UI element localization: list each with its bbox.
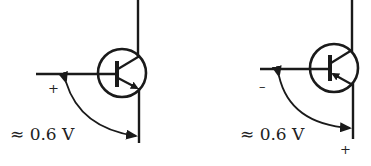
npn-transistor-symbol xyxy=(36,0,146,143)
transistor-diagrams: + ≈ 0.6 V – + ≈ 0.6 V xyxy=(0,0,371,166)
npn-voltage-label: ≈ 0.6 V xyxy=(10,124,75,144)
npn-base-polarity: + xyxy=(48,81,59,96)
pnp-diagram: – + ≈ 0.6 V xyxy=(240,0,358,157)
pnp-base-polarity: – xyxy=(259,79,266,94)
pnp-emitter-polarity: + xyxy=(340,142,351,157)
npn-voltage-arc-arrow xyxy=(66,82,136,136)
npn-diagram: + ≈ 0.6 V xyxy=(10,0,146,144)
pnp-voltage-label: ≈ 0.6 V xyxy=(240,124,305,144)
